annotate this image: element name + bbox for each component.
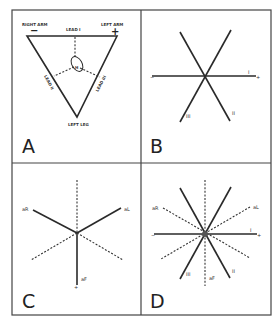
label-avl: aL <box>124 206 130 212</box>
label-lead-3: III <box>186 113 190 119</box>
center-point <box>202 231 208 237</box>
minus-sign: − <box>151 232 155 238</box>
panel-b-triaxial-system: − + I II III B <box>150 30 260 157</box>
panel-letter-c: C <box>22 290 35 312</box>
plus-sign: + <box>256 74 260 80</box>
panel-letter-a: A <box>22 135 35 157</box>
label-lead-2: II <box>232 110 235 116</box>
axis-avl-negative <box>31 233 77 260</box>
projection-lead-2 <box>54 67 74 76</box>
panel-d-hexaxial-system: − + I II III aR aL aF D <box>150 180 261 312</box>
minus-sign: − <box>30 25 38 36</box>
heart-icon <box>69 55 86 74</box>
axis-avr-positive <box>33 210 77 233</box>
label-left-leg: LEFT LEG <box>68 122 89 127</box>
label-avr: aR <box>152 205 159 211</box>
label-lead-3: III <box>186 271 190 277</box>
axis-avl-positive <box>77 208 121 233</box>
plus-sign: + <box>257 232 261 238</box>
label-avf: aF <box>81 276 87 282</box>
axis-avr-negative <box>77 233 123 260</box>
label-lead-1: I <box>250 227 251 233</box>
projection-lead-3 <box>80 68 100 77</box>
label-avf: aF <box>209 275 215 281</box>
panel-letter-d: D <box>150 290 165 312</box>
panel-a-einthoven-triangle: RIGHT ARM LEFT ARM − + LEAD I H LEAD II … <box>22 22 123 157</box>
minus-sign: − <box>150 74 154 80</box>
ecg-lead-axes-figure: RIGHT ARM LEFT ARM − + LEAD I H LEAD II … <box>0 0 279 323</box>
label-lead-2: II <box>232 268 235 274</box>
label-lead-1: I <box>248 69 249 75</box>
label-lead-2: LEAD II <box>43 74 55 91</box>
label-avl: aL <box>253 204 259 210</box>
plus-sign: + <box>74 284 78 290</box>
panel-c-augmented-leads: aR aL aF + C <box>22 180 130 312</box>
panel-letter-b: B <box>150 135 163 157</box>
heart-marker: H <box>75 65 78 70</box>
label-lead-1: LEAD I <box>66 27 81 32</box>
label-avr: aR <box>22 206 29 212</box>
